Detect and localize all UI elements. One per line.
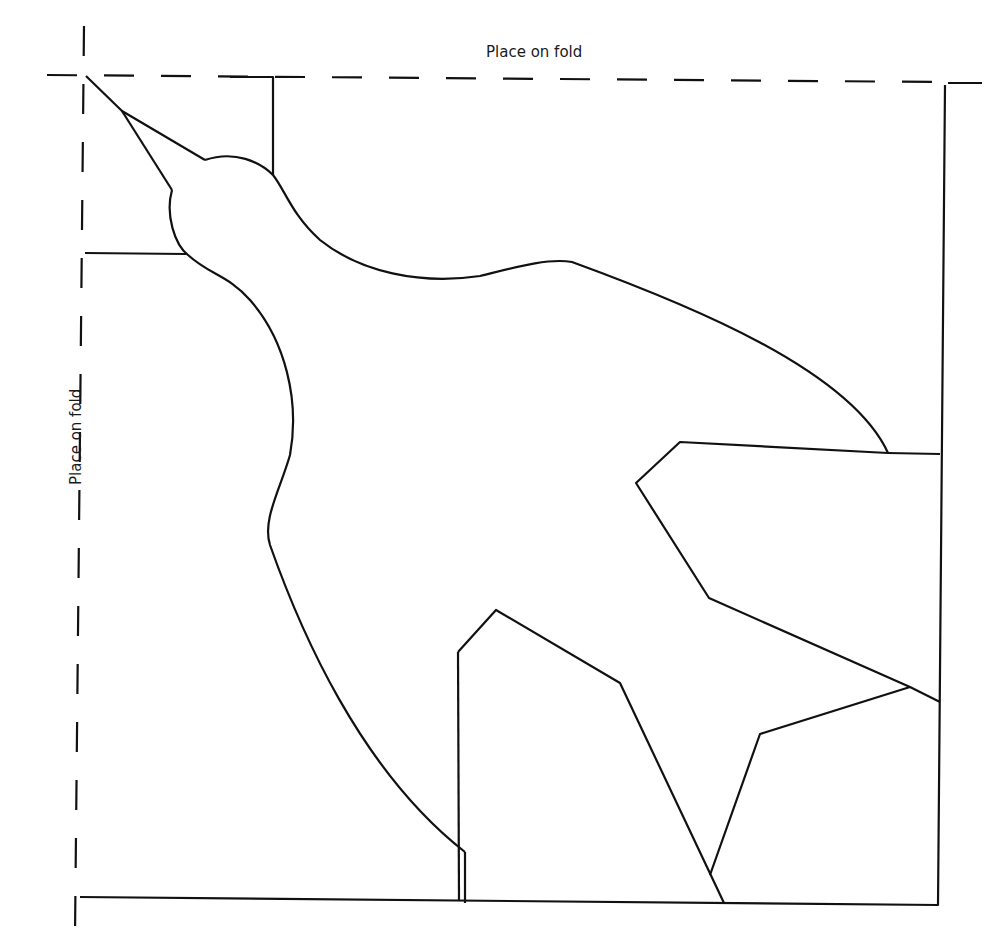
tail-lower [710, 687, 910, 875]
bird-body-outline [205, 156, 888, 453]
bird-neck-front [170, 190, 465, 852]
beak-lower [122, 111, 172, 190]
tail-top [888, 453, 940, 454]
leg-left [458, 652, 459, 900]
tail-upper-wing [636, 442, 940, 702]
pattern-svg [0, 0, 991, 944]
pattern-canvas: Place on fold Place on fold [0, 0, 991, 944]
top-fold-label: Place on fold [486, 43, 582, 61]
frame-right-bottom [80, 85, 945, 905]
wing-tip [458, 610, 724, 903]
head-box-bottom [85, 253, 186, 254]
left-fold-label: Place on fold [67, 389, 85, 485]
top-fold-line [47, 75, 940, 82]
